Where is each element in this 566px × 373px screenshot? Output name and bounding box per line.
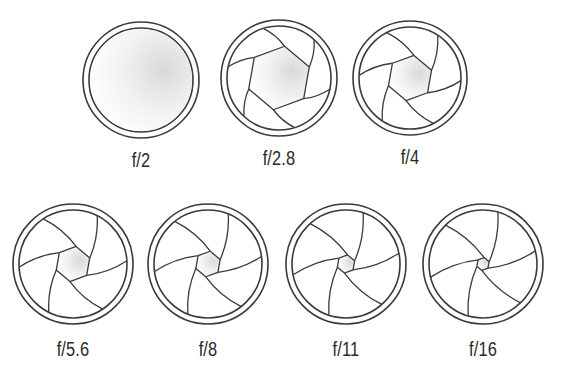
aperture-f-2 bbox=[79, 18, 203, 142]
f-stop-label: f/8 bbox=[159, 338, 257, 361]
aperture-f-2-8 bbox=[217, 16, 341, 140]
aperture-f-4 bbox=[349, 17, 471, 139]
f-stop-label: f/5.6 bbox=[24, 338, 122, 361]
aperture-f-11 bbox=[282, 200, 410, 328]
f-stop-label: f/2.8 bbox=[230, 147, 328, 170]
aperture-opening bbox=[90, 29, 192, 131]
iris-icon bbox=[419, 200, 547, 328]
f-stop-label: f/2 bbox=[92, 149, 190, 172]
aperture-f-5-6 bbox=[9, 200, 137, 328]
iris-icon bbox=[144, 200, 272, 328]
aperture-f-16 bbox=[419, 200, 547, 328]
f-stop-label: f/16 bbox=[434, 338, 532, 361]
iris-icon bbox=[349, 17, 471, 139]
iris-icon bbox=[79, 18, 203, 142]
f-stop-label: f/11 bbox=[297, 338, 395, 361]
f-stop-label: f/4 bbox=[361, 146, 459, 169]
aperture-f-8 bbox=[144, 200, 272, 328]
iris-icon bbox=[9, 200, 137, 328]
iris-icon bbox=[217, 16, 341, 140]
iris-icon bbox=[282, 200, 410, 328]
